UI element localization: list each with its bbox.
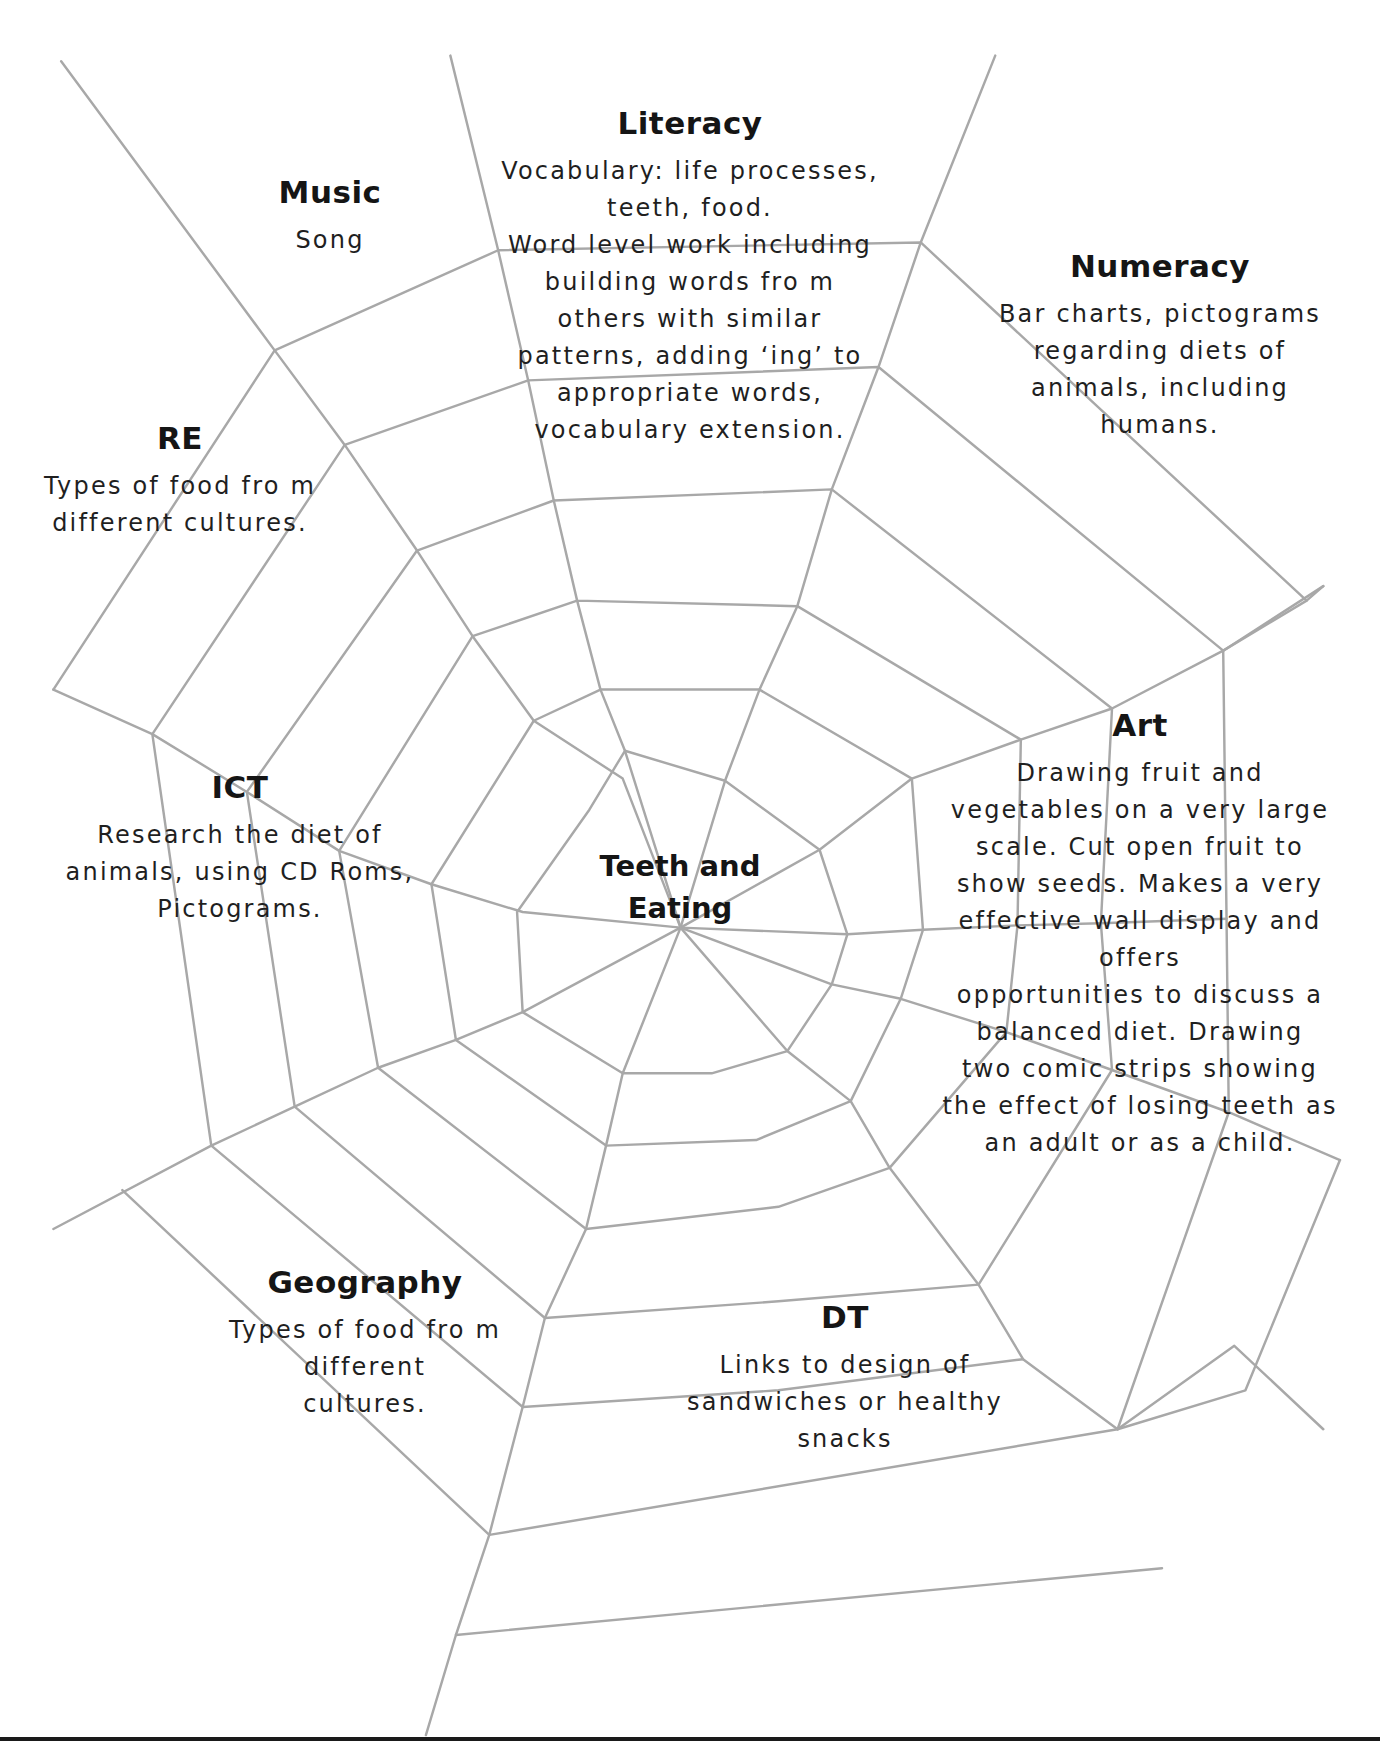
section-music: Music Song bbox=[230, 172, 430, 259]
section-art-title: Art bbox=[925, 705, 1355, 745]
section-re-title: RE bbox=[20, 418, 340, 458]
section-literacy-body: Vocabulary: life processes, teeth, food.… bbox=[480, 153, 900, 449]
spoke-sw bbox=[53, 928, 680, 1229]
section-numeracy-title: Numeracy bbox=[970, 246, 1350, 286]
section-re: RE Types of food fro m different culture… bbox=[20, 418, 340, 542]
section-numeracy-body: Bar charts, pictograms regarding diets o… bbox=[970, 296, 1350, 444]
section-dt-title: DT bbox=[665, 1297, 1025, 1337]
section-art: Art Drawing fruit and vegetables on a ve… bbox=[925, 705, 1355, 1162]
section-geography: Geography Types of food fro m different … bbox=[205, 1262, 525, 1423]
section-dt: DT Links to design of sandwiches or heal… bbox=[665, 1297, 1025, 1458]
section-dt-body: Links to design of sandwiches or healthy… bbox=[665, 1347, 1025, 1458]
section-music-title: Music bbox=[230, 172, 430, 212]
section-ict-body: Research the diet of animals, using CD R… bbox=[60, 817, 420, 928]
section-geography-title: Geography bbox=[205, 1262, 525, 1302]
section-literacy: Literacy Vocabulary: life processes, tee… bbox=[480, 103, 900, 449]
section-geography-body: Types of food fro m different cultures. bbox=[205, 1312, 525, 1423]
section-ict: ICT Research the diet of animals, using … bbox=[60, 767, 420, 928]
section-literacy-title: Literacy bbox=[480, 103, 900, 143]
section-ict-title: ICT bbox=[60, 767, 420, 807]
ring-7 bbox=[456, 1568, 1162, 1635]
center-topic-title: Teeth and Eating bbox=[560, 845, 800, 929]
section-numeracy: Numeracy Bar charts, pictograms regardin… bbox=[970, 246, 1350, 444]
section-music-body: Song bbox=[230, 222, 430, 259]
section-art-body: Drawing fruit and vegetables on a very l… bbox=[925, 755, 1355, 1162]
bottom-border-line bbox=[0, 1737, 1380, 1741]
section-re-body: Types of food fro m different cultures. bbox=[20, 468, 340, 542]
center-topic: Teeth and Eating bbox=[560, 845, 800, 929]
